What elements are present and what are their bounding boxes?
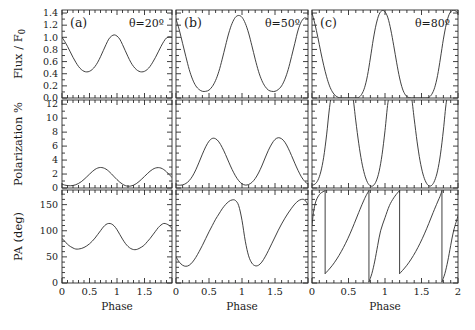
ytick-label-polarization-4: 8 (52, 126, 58, 137)
xtick-label-c2-3: 1.5 (414, 286, 430, 297)
data-curve-pa-2-4 (442, 216, 458, 282)
curve-group-polarization-1 (176, 138, 308, 186)
yaxis-label-pa-group: PA (deg) (11, 212, 25, 261)
ytick-label-flux-4: 0.8 (43, 44, 58, 55)
yaxis-label-polarization: Polarization % (11, 102, 25, 186)
ytick-label-pa-1: 50 (46, 251, 58, 262)
ytick-label-polarization-5: 10 (46, 112, 58, 123)
data-curve-pa-1-0 (176, 199, 308, 266)
panel-frame-r2-c1 (176, 190, 308, 283)
ytick-label-flux-5: 1.0 (43, 32, 58, 43)
data-curve-pa-2-2 (369, 191, 400, 282)
theta-annotation-2: θ=80º (415, 17, 450, 30)
ytick-label-polarization-2: 4 (52, 154, 58, 165)
xtick-label-c1-0: 0 (173, 286, 179, 297)
xtick-label-c1-2: 1 (239, 286, 245, 297)
xaxis-label-c0: Phase (101, 300, 133, 312)
xtick-label-c2-1: 0.5 (341, 286, 357, 297)
data-curve-pa-2-1 (325, 191, 369, 274)
xtick-label-c1-3: 1.5 (267, 286, 283, 297)
xaxis-label-c2: Phase (369, 300, 401, 312)
yaxis-label-pa: PA (deg) (11, 212, 25, 261)
xtick-label-c2-4: 2 (455, 286, 461, 297)
ytick-label-polarization-3: 6 (52, 140, 58, 151)
xtick-label-c2-2: 1 (382, 286, 388, 297)
yaxis-label-polarization-group: Polarization % (11, 102, 25, 186)
panel-frame-r1-c1 (176, 100, 308, 188)
data-curve-flux-0-0 (62, 35, 172, 72)
ytick-label-flux-3: 0.6 (43, 56, 58, 67)
xtick-label-c0-0: 0 (59, 286, 65, 297)
panel-frame-r2-c2 (312, 190, 458, 283)
yaxis-label-flux: Flux / F0 (11, 29, 27, 79)
xtick-label-c0-3: 1.5 (137, 286, 153, 297)
xtick-label-c1-1: 0.5 (201, 286, 217, 297)
panel-label-0: (a) (70, 15, 87, 30)
panel-label-1: (b) (184, 15, 202, 30)
ytick-label-flux-2: 0.4 (43, 68, 58, 79)
ytick-label-flux-1: 0.2 (43, 80, 58, 91)
data-curve-pa-0-0 (62, 223, 172, 249)
ytick-label-flux-6: 1.2 (43, 19, 58, 30)
ytick-label-flux-7: 1.4 (43, 7, 58, 18)
curve-group-pa-1 (176, 199, 308, 266)
xaxis-label-c1: Phase (226, 300, 258, 312)
curve-group-pa-0 (62, 223, 172, 249)
curve-group-flux-0 (62, 35, 172, 72)
data-curve-pa-2-3 (400, 191, 442, 274)
ytick-label-polarization-6: 12 (46, 98, 58, 109)
multi-panel-plot: 0.00.20.40.60.81.01.21.40246810120501001… (0, 0, 475, 330)
ytick-label-polarization-1: 2 (52, 168, 58, 179)
xtick-label-c2-0: 0 (309, 286, 315, 297)
panel-frame-r1-c2 (312, 100, 458, 188)
theta-annotation-0: θ=20º (129, 17, 164, 30)
data-curve-polarization-1-0 (176, 138, 308, 186)
panel-label-2: (c) (320, 15, 337, 30)
panel-frame-r1-c0 (62, 100, 172, 188)
xtick-label-c0-1: 0.5 (82, 286, 98, 297)
panel-frame-r2-c0 (62, 190, 172, 283)
yaxis-label-flux-group: Flux / F0 (11, 29, 27, 79)
figure-container: 0.00.20.40.60.81.01.21.40246810120501001… (0, 0, 475, 330)
ytick-label-pa-0: 0 (52, 277, 58, 288)
ytick-label-pa-2: 100 (40, 225, 58, 236)
xtick-label-c0-2: 1 (114, 286, 120, 297)
ytick-label-polarization-0: 0 (52, 182, 58, 193)
ytick-label-pa-3: 150 (40, 199, 58, 210)
curve-group-pa-2 (312, 191, 458, 282)
yaxis-label-flux-sub: 0 (17, 29, 27, 34)
theta-annotation-1: θ=50º (265, 17, 300, 30)
